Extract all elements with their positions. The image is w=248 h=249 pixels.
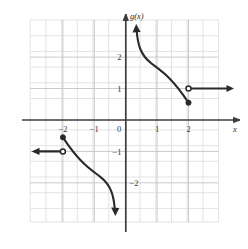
x-tick-label--2: −2 [58,124,67,134]
y-tick-label-1: 1 [117,84,121,94]
x-axis-label: x [232,124,237,134]
x-tick-label--1: −1 [90,124,99,134]
x-tick-label-0: 0 [117,124,121,134]
x-tick-label-2: 2 [186,124,190,134]
figure-background [0,0,248,249]
y-axis-label: g(x) [130,11,144,21]
closed-circle-upper-branch-end [186,100,191,105]
y-tick-label--2: −2 [130,178,139,188]
x-tick-label-1: 1 [155,124,159,134]
open-circle-upper-ray-start [186,86,191,91]
graph-figure: −2 −1 0 1 2 2 1 −1 −2 x g(x) [0,0,248,249]
y-tick-label-2: 2 [117,52,121,62]
y-tick-label--1: −1 [112,147,121,157]
coordinate-plane: −2 −1 0 1 2 2 1 −1 −2 x g(x) [0,0,248,249]
closed-circle-lower-branch-start [60,135,65,140]
open-circle-lower-ray-start [60,149,65,154]
